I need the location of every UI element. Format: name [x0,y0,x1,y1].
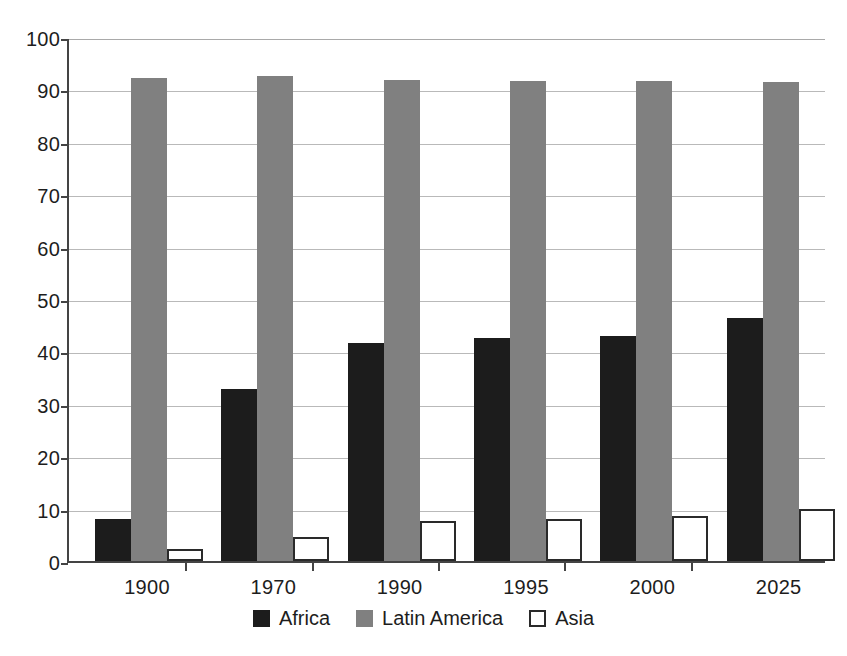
bar-latin-america-2000 [636,81,672,562]
gridline-10 [69,511,825,512]
y-tick-label-60: 60 [4,239,60,259]
gridline-90 [69,91,825,92]
x-tick-label-1970: 1970 [223,575,323,599]
bar-latin-america-1970 [257,76,293,561]
gridline-30 [69,406,825,407]
bar-africa-1990 [348,343,384,561]
y-tick-mark-20 [61,458,68,460]
gridline-70 [69,196,825,197]
y-axis: 1009080706050403020100 [0,39,60,563]
y-tick-label-50: 50 [4,291,60,311]
y-tick-label-20: 20 [4,448,60,468]
bar-africa-1970 [221,389,257,561]
legend-label-latin-america: Latin America [382,608,503,628]
bar-asia-2025 [799,509,835,561]
y-tick-label-80: 80 [4,134,60,154]
y-tick-mark-60 [61,249,68,251]
x-tick-mark-1970 [312,563,314,571]
gridline-20 [69,458,825,459]
bar-latin-america-2025 [763,82,799,561]
y-tick-mark-80 [61,144,68,146]
gridline-50 [69,301,825,302]
x-tick-mark-2000 [691,563,693,571]
bar-asia-1900 [167,549,203,561]
x-tick-label-2000: 2000 [602,575,702,599]
y-tick-mark-0 [61,563,68,565]
y-tick-label-40: 40 [4,343,60,363]
legend-item-asia[interactable]: Asia [529,608,594,628]
x-tick-label-1995: 1995 [476,575,576,599]
y-tick-label-10: 10 [4,501,60,521]
x-tick-mark-1995 [564,563,566,571]
y-tick-mark-90 [61,91,68,93]
bar-latin-america-1900 [131,78,167,561]
bar-asia-1970 [293,537,329,561]
bar-chart: 1009080706050403020100 19001970199019952… [0,0,847,656]
y-tick-label-90: 90 [4,81,60,101]
y-tick-mark-100 [61,39,68,41]
bar-africa-2025 [727,318,763,561]
gridline-80 [69,144,825,145]
y-tick-label-30: 30 [4,396,60,416]
y-tick-label-0: 0 [4,553,60,573]
y-tick-mark-30 [61,406,68,408]
x-tick-label-1990: 1990 [350,575,450,599]
gridline-40 [69,353,825,354]
legend-swatch-africa-icon [253,610,270,627]
legend-swatch-asia-icon [529,610,546,627]
bar-latin-america-1995 [510,81,546,562]
y-tick-label-70: 70 [4,186,60,206]
legend-swatch-latin-america-icon [356,610,373,627]
y-tick-mark-50 [61,301,68,303]
legend-item-latin-america[interactable]: Latin America [356,608,503,628]
x-tick-mark-1990 [438,563,440,571]
y-tick-mark-70 [61,196,68,198]
bar-africa-1900 [95,519,131,561]
legend-label-asia: Asia [555,608,594,628]
bar-asia-1990 [420,521,456,561]
gridline-60 [69,249,825,250]
legend-item-africa[interactable]: Africa [253,608,330,628]
bar-asia-1995 [546,519,582,561]
x-tick-mark-1900 [185,563,187,571]
x-tick-label-1900: 1900 [97,575,197,599]
bar-africa-1995 [474,338,510,561]
bar-africa-2000 [600,336,636,561]
x-tick-label-2025: 2025 [729,575,829,599]
bar-latin-america-1990 [384,80,420,561]
bar-asia-2000 [672,516,708,561]
gridline-100 [69,39,825,40]
plot-area [67,39,825,563]
y-tick-mark-10 [61,511,68,513]
legend: AfricaLatin AmericaAsia [0,608,847,628]
legend-label-africa: Africa [279,608,330,628]
y-tick-label-100: 100 [4,29,60,49]
y-tick-mark-40 [61,353,68,355]
